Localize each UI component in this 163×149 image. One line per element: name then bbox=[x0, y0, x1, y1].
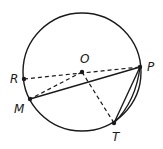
label-o: O bbox=[80, 52, 89, 66]
label-t: T bbox=[112, 130, 121, 144]
point-o bbox=[80, 70, 84, 74]
label-r: R bbox=[10, 72, 18, 86]
chord-mp bbox=[30, 67, 140, 99]
label-m: M bbox=[14, 102, 25, 116]
point-m bbox=[28, 97, 32, 101]
circle-diagram: O P R M T bbox=[0, 0, 163, 149]
point-r bbox=[22, 77, 26, 81]
point-t bbox=[112, 121, 116, 125]
point-p bbox=[138, 65, 142, 69]
label-p: P bbox=[147, 60, 155, 74]
